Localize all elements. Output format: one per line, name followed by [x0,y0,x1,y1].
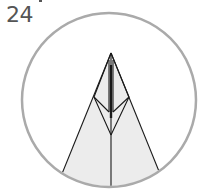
paper-model [55,53,167,191]
fold-diagram [0,0,205,191]
